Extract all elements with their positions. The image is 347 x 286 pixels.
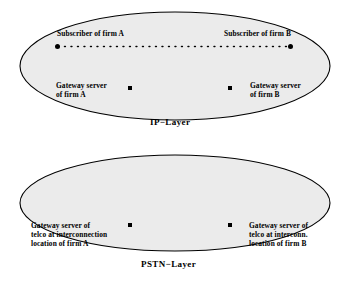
- gateway-b-marker: [228, 86, 232, 90]
- telco-gateway-b-label-line2: telco at interconn.: [249, 230, 308, 239]
- subscriber-a-marker: [55, 44, 60, 49]
- ip-layer-title: IP−Layer: [150, 117, 190, 127]
- gateway-b-label-line2: of firm B: [250, 90, 280, 99]
- telco-gateway-b-label-line1: Gateway server of: [249, 221, 308, 230]
- subscriber-a-label: Subscriber of firm A: [57, 29, 124, 38]
- telco-gateway-a-label-line3: location of firm A: [31, 239, 88, 248]
- telco-gateway-b-label-line3: location of firm B: [249, 239, 306, 248]
- gateway-a-label-line2: of firm A: [56, 90, 86, 99]
- gateway-b-label-line1: Gateway server: [250, 81, 301, 90]
- telco-gateway-a-label-line2: telco at interconnection: [31, 230, 107, 239]
- telco-gateway-a-marker: [128, 223, 132, 227]
- gateway-a-marker: [128, 86, 132, 90]
- subscriber-b-label: Subscriber of firm B: [224, 29, 291, 38]
- telco-gateway-a-label-line1: Gateway server of: [31, 221, 90, 230]
- pstn-layer-title: PSTN−Layer: [141, 259, 196, 269]
- network-layer-diagram: Subscriber of firm A Subscriber of firm …: [0, 0, 347, 286]
- subscriber-b-marker: [288, 44, 293, 49]
- gateway-a-label-line1: Gateway server: [56, 81, 107, 90]
- telco-gateway-b-marker: [228, 223, 232, 227]
